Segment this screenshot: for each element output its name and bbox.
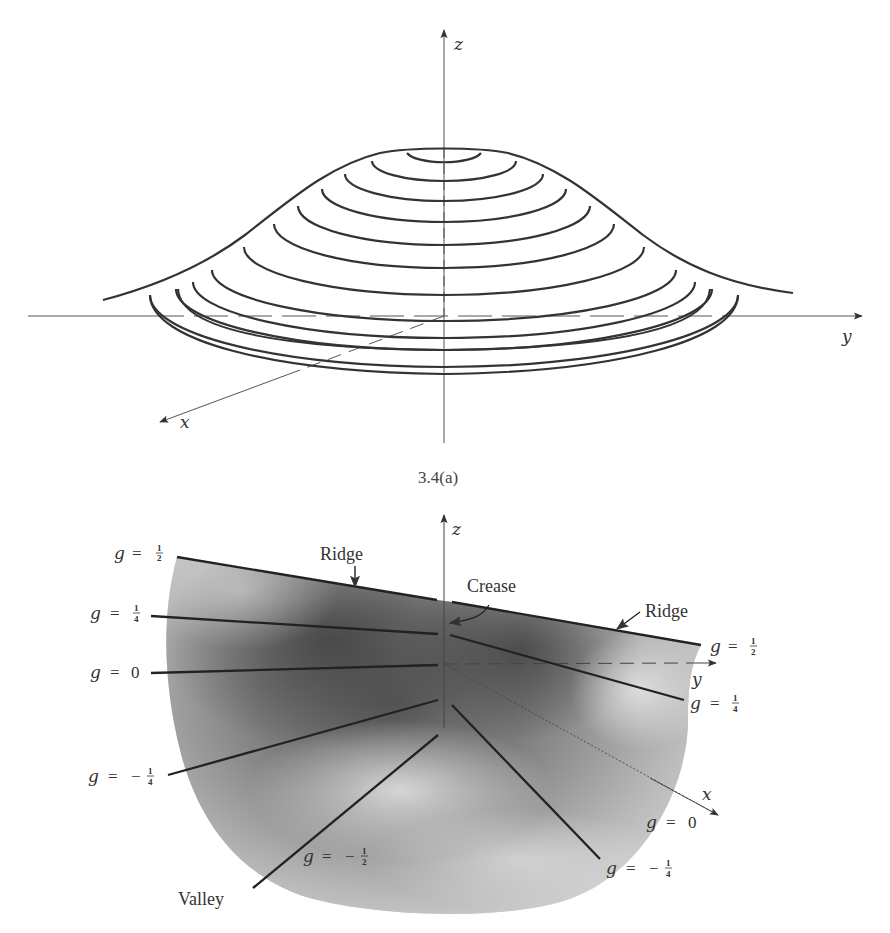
x-axis	[160, 316, 444, 422]
svg-text:1: 1	[134, 603, 139, 613]
svg-text:g: g	[606, 858, 617, 878]
svg-text:4: 4	[733, 704, 738, 714]
svg-text:g: g	[646, 812, 657, 832]
svg-text:g: g	[90, 662, 101, 682]
svg-text:=: =	[110, 604, 120, 623]
svg-text:=: =	[108, 767, 118, 786]
level-label-left-quarter: g = 1 4	[90, 603, 140, 624]
level-label-right-quarter: g = 1 4	[690, 693, 739, 714]
svg-text:0: 0	[688, 813, 697, 832]
svg-text:0: 0	[131, 663, 140, 682]
svg-text:2: 2	[157, 553, 162, 563]
level-label-left-zero: g = 0	[90, 662, 140, 682]
y-axis-label: y	[691, 669, 702, 689]
svg-text:=: =	[728, 637, 738, 656]
svg-text:g: g	[710, 636, 721, 656]
svg-text:g: g	[88, 766, 99, 786]
svg-text:1: 1	[751, 636, 756, 646]
x-axis-label: x	[180, 412, 190, 432]
level-label-left-neg-quarter: g = − 1 4	[88, 766, 154, 787]
figure-3-4a: z y x	[28, 30, 862, 487]
svg-text:=: =	[710, 694, 720, 713]
svg-text:=: =	[626, 859, 636, 878]
svg-text:=: =	[132, 544, 142, 563]
svg-text:=: =	[110, 663, 120, 682]
level-label-right-half: g = 1 2	[710, 636, 757, 657]
svg-text:=: =	[666, 813, 676, 832]
svg-text:2: 2	[362, 857, 367, 867]
figure-caption: 3.4(a)	[418, 468, 458, 487]
svg-text:1: 1	[666, 858, 671, 868]
svg-text:g: g	[303, 846, 314, 866]
svg-text:4: 4	[666, 869, 671, 879]
svg-text:4: 4	[134, 614, 139, 624]
level-label-right-neg-quarter: g = − 1 4	[606, 858, 672, 879]
crease-label: Crease	[467, 576, 516, 596]
x-axis-label: x	[702, 784, 712, 804]
svg-text:−: −	[345, 847, 355, 866]
svg-text:−: −	[131, 767, 141, 786]
figure-3-4b: z y x Ridge Ridge Crease Vall	[88, 515, 757, 930]
svg-text:1: 1	[362, 846, 367, 856]
figure-canvas: z y x	[0, 0, 890, 933]
ridge-label-left: Ridge	[320, 544, 363, 564]
ridge-right-arrow	[617, 612, 640, 629]
svg-text:−: −	[649, 859, 659, 878]
svg-text:1: 1	[733, 693, 738, 703]
svg-text:g: g	[690, 693, 701, 713]
level-label-left-half: g = 1 2	[114, 543, 163, 563]
svg-text:1: 1	[148, 766, 153, 776]
svg-text:1: 1	[157, 543, 162, 553]
svg-text:g: g	[90, 603, 101, 623]
z-axis-label: z	[451, 519, 462, 539]
valley-label: Valley	[178, 889, 224, 909]
svg-text:2: 2	[751, 647, 756, 657]
ridge-label-right: Ridge	[645, 601, 688, 621]
surface-profile	[103, 149, 793, 301]
svg-text:g: g	[114, 543, 125, 563]
level-label-right-zero: g = 0	[646, 812, 697, 832]
svg-text:=: =	[322, 847, 332, 866]
shaded-surface	[140, 530, 730, 930]
svg-text:4: 4	[148, 777, 153, 787]
z-axis-label: z	[453, 34, 464, 54]
y-axis-label: y	[841, 326, 852, 346]
